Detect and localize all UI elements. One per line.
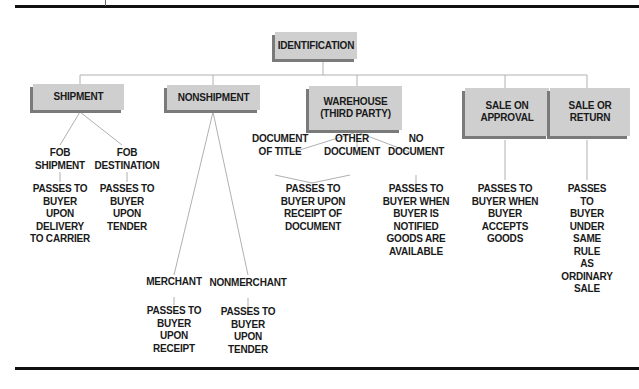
- no-document-label: NO DOCUMENT: [388, 133, 444, 158]
- document-of-title-label: DOCUMENT OF TITLE: [252, 133, 308, 158]
- merchant-result: PASSES TO BUYER UPON RECEIPT: [147, 305, 202, 355]
- fob-destination-result: PASSES TO BUYER UPON TENDER: [100, 183, 155, 233]
- no-document-result: PASSES TO BUYER WHEN BUYER IS NOTIFIED G…: [383, 183, 449, 258]
- nonmerchant-label: NONMERCHANT: [209, 277, 286, 290]
- merchant-label: MERCHANT: [146, 276, 202, 289]
- fob-shipment-result: PASSES TO BUYER UPON DELIVERY TO CARRIER: [30, 183, 90, 246]
- warehouse-box: WAREHOUSE (THIRD PARTY): [309, 86, 402, 130]
- other-document-label: OTHER DOCUMENT: [324, 133, 380, 158]
- shipment-box: SHIPMENT: [33, 84, 124, 110]
- sale-or-return-box: SALE OR RETURN: [550, 88, 630, 136]
- sale-on-approval-result: PASSES TO BUYER WHEN BUYER ACCEPTS GOODS: [472, 183, 538, 246]
- sale-or-return-result: PASSES TO BUYER UNDER SAME RULE AS ORDIN…: [561, 183, 613, 296]
- nonmerchant-result: PASSES TO BUYER UPON TENDER: [221, 306, 276, 356]
- document-result: PASSES TO BUYER UPON RECEIPT OF DOCUMENT: [281, 183, 346, 233]
- nonshipment-box: NONSHIPMENT: [167, 85, 260, 110]
- fob-shipment-label: FOB SHIPMENT: [35, 147, 85, 172]
- sale-on-approval-box: SALE ON APPROVAL: [465, 88, 549, 136]
- fob-destination-label: FOB DESTINATION: [95, 147, 160, 172]
- identification-box: IDENTIFICATION: [275, 32, 357, 59]
